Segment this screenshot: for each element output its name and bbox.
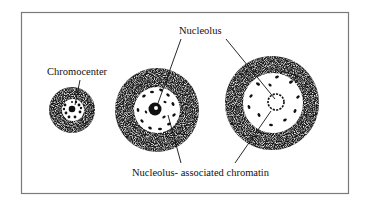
nucleolus-associated-chromatin-label: Nucleolus- associated chromatin <box>132 167 270 178</box>
nucleolus-label: Nucleolus <box>179 25 222 36</box>
small-nucleus <box>49 87 95 133</box>
medium-nucleus <box>115 68 199 152</box>
nucleolus-ring-icon <box>268 94 284 110</box>
chromocenter-icon <box>69 106 76 113</box>
nucleus-diagram: Chromocenter Nucleolus Nucleolus- associ… <box>0 0 365 207</box>
nucleolus-icon <box>149 103 162 116</box>
chromocenter-label: Chromocenter <box>47 66 108 77</box>
large-nucleus <box>225 56 319 150</box>
